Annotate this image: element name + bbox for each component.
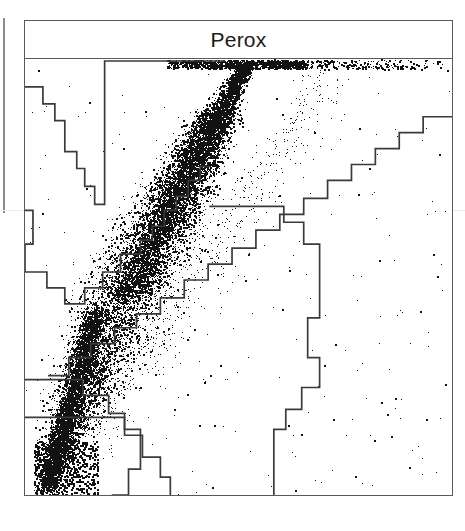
scatter-plot-area[interactable] — [24, 58, 453, 496]
figure-root: Perox — [0, 0, 465, 531]
gate-central-vertical-gate — [25, 380, 140, 495]
gate-bottom-left-gate — [25, 417, 170, 495]
gate-left-lower-gate — [25, 167, 210, 304]
figure-edge-rule — [3, 18, 5, 213]
gate-lower-right-gate — [210, 206, 319, 495]
gate-right-diagonal-gate — [49, 117, 452, 376]
gate-overlay-layer — [25, 59, 452, 495]
gate-upper-left-gate — [25, 61, 224, 204]
plot-title-strip: Perox — [24, 20, 453, 59]
page-title: Perox — [211, 29, 267, 50]
